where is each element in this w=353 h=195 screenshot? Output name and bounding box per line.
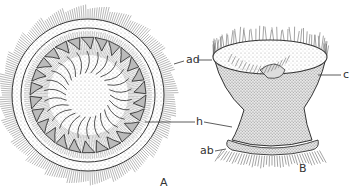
- panel-label-a: A: [160, 177, 168, 188]
- panel-a-disc: [0, 5, 178, 186]
- panel-label-b: B: [299, 163, 307, 174]
- label-h: h: [196, 116, 203, 127]
- label-c: c: [343, 69, 349, 80]
- label-ab: ab: [200, 145, 214, 156]
- panel-b-bell: [213, 26, 329, 169]
- label-ad: ad: [186, 54, 200, 65]
